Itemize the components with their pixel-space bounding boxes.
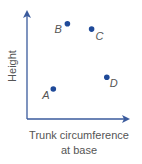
x-axis-label-line-1: Trunk circumference — [29, 129, 129, 141]
point-label-d: D — [110, 77, 118, 89]
y-axis-label: Height — [6, 50, 18, 82]
point-label-a: A — [41, 89, 49, 101]
point-label-b: B — [54, 23, 61, 35]
data-point-a — [51, 86, 57, 92]
data-point-c — [89, 26, 95, 32]
point-label-c: C — [96, 30, 104, 42]
data-point-d — [104, 75, 110, 81]
x-axis-label-line-2: at base — [61, 144, 97, 156]
data-point-b — [65, 21, 71, 27]
data-points: ABCD — [41, 21, 118, 101]
scatter-chart: Height Trunk circumference at base ABCD — [0, 0, 142, 164]
